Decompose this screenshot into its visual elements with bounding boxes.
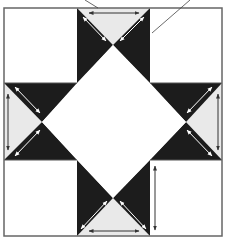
leader-line [85, 0, 98, 8]
quilt-block-diagram [0, 0, 227, 241]
